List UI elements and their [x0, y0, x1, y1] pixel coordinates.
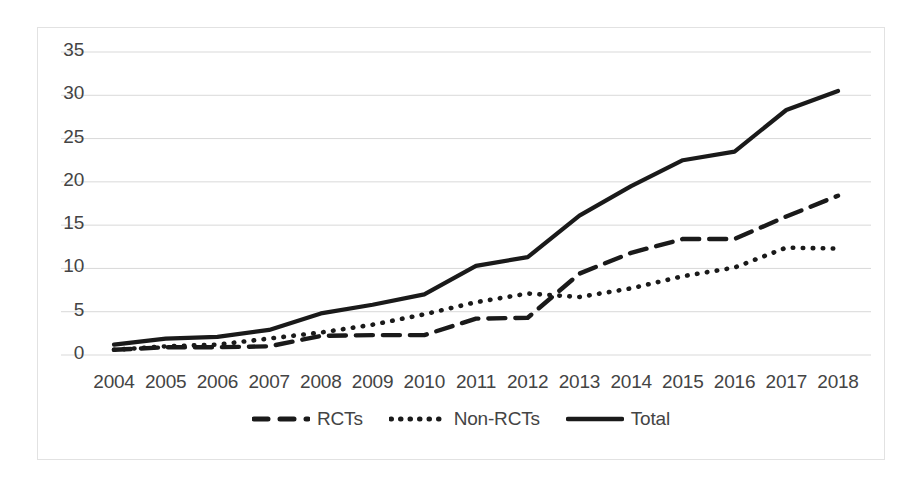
- legend-label: Non-RCTs: [454, 408, 540, 430]
- series-line-total: [114, 91, 838, 345]
- y-gridlines: [61, 52, 871, 355]
- series-line-rcts: [114, 196, 838, 350]
- y-axis-tick-label: 0: [42, 342, 84, 364]
- legend-swatch-dashed-icon: [252, 412, 310, 426]
- x-axis-tick-label: 2016: [707, 371, 763, 393]
- y-axis-tick-label: 30: [42, 82, 84, 104]
- legend-item-total[interactable]: Total: [566, 408, 670, 430]
- x-axis-tick-label: 2006: [189, 371, 245, 393]
- series-paths: [114, 91, 838, 350]
- x-axis-tick-label: 2010: [396, 371, 452, 393]
- x-axis-tick-label: 2015: [655, 371, 711, 393]
- legend-swatch-dotted-icon: [389, 412, 447, 426]
- chart-legend: RCTsNon-RCTsTotal: [37, 408, 885, 430]
- x-axis-tick-label: 2013: [551, 371, 607, 393]
- y-axis-tick-label: 35: [42, 39, 84, 61]
- x-axis-tick-label: 2008: [293, 371, 349, 393]
- x-axis-tick-label: 2018: [810, 371, 866, 393]
- x-axis-tick-label: 2004: [86, 371, 142, 393]
- legend-label: RCTs: [317, 408, 363, 430]
- legend-item-rcts[interactable]: RCTs: [252, 408, 363, 430]
- x-axis-tick-label: 2005: [138, 371, 194, 393]
- x-axis-tick-label: 2017: [758, 371, 814, 393]
- x-axis-tick-label: 2014: [603, 371, 659, 393]
- chart-plot-area: [38, 28, 884, 459]
- legend-item-non-rcts[interactable]: Non-RCTs: [389, 408, 540, 430]
- x-axis-tick-label: 2012: [500, 371, 556, 393]
- y-axis-tick-label: 25: [42, 126, 84, 148]
- y-axis-tick-label: 10: [42, 255, 84, 277]
- x-axis-tick-label: 2009: [345, 371, 401, 393]
- chart-plot-frame: 05101520253035 2004200520062007200820092…: [37, 27, 885, 460]
- x-axis-tick-label: 2007: [241, 371, 297, 393]
- y-axis-tick-label: 15: [42, 212, 84, 234]
- legend-swatch-solid-icon: [566, 412, 624, 426]
- y-axis-tick-label: 20: [42, 169, 84, 191]
- legend-label: Total: [631, 408, 670, 430]
- y-axis-tick-label: 5: [42, 299, 84, 321]
- line-chart-figure: 05101520253035 2004200520062007200820092…: [0, 0, 923, 493]
- x-axis-tick-label: 2011: [448, 371, 504, 393]
